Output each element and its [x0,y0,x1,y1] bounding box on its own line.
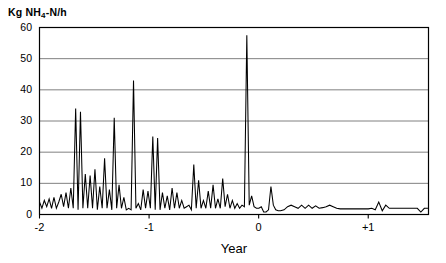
x-tick-label--2: -2 [23,221,57,233]
x-tick-label--1: -1 [132,221,166,233]
y-tick-label-20: 20 [6,145,32,157]
x-tick-label-0: 0 [242,221,276,233]
gridlines-group [40,59,429,184]
x-tick-marks-group [40,215,369,219]
x-axis-title: Year [174,241,294,256]
y-tick-label-40: 40 [6,83,32,95]
chart-figure: Kg NH4-N/h 0102030405060 -2-10+1 Year [0,0,446,263]
y-tick-label-10: 10 [6,176,32,188]
y-tick-label-60: 60 [6,21,32,33]
y-tick-label-50: 50 [6,52,32,64]
y-tick-label-30: 30 [6,114,32,126]
x-tick-label-+1: +1 [351,221,385,233]
data-series-line [40,35,428,212]
y-tick-label-0: 0 [6,208,32,220]
